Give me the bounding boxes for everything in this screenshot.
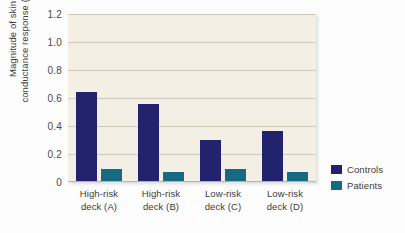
x-axis-category-label-line-1: Low-risk (192, 188, 254, 201)
x-axis-category-label: Low-riskdeck (C) (192, 188, 254, 214)
y-axis-title: Magnitude of skin conductance response (… (2, 0, 36, 134)
legend-swatch-icon (331, 165, 342, 174)
y-axis-title-line-1: Magnitude of skin (7, 1, 19, 77)
x-axis-category-label: High-riskdeck (B) (130, 188, 192, 214)
bar-controls-1 (76, 92, 97, 182)
legend-label: Controls (347, 164, 383, 175)
gridline (68, 14, 316, 15)
chart-legend: ControlsPatients (331, 163, 383, 195)
x-axis-category-label-line-2: deck (A) (68, 201, 130, 214)
gridline (68, 42, 316, 43)
plot-area (68, 14, 316, 182)
legend-item-controls[interactable]: Controls (331, 163, 383, 176)
chart-figure: Magnitude of skin conductance response (… (0, 0, 405, 233)
x-axis-category-label-line-1: Low-risk (254, 188, 316, 201)
x-axis-category-labels: High-riskdeck (A)High-riskdeck (B)Low-ri… (68, 188, 316, 222)
y-axis-tick-label: 0.4 (36, 121, 62, 132)
x-axis-category-label: High-riskdeck (A) (68, 188, 130, 214)
legend-label: Patients (347, 180, 382, 191)
y-axis-tick-label: 1.2 (36, 9, 62, 20)
y-axis-tick-label: 0 (36, 177, 62, 188)
bar-controls-4 (262, 131, 283, 182)
x-axis-category-label: Low-riskdeck (D) (254, 188, 316, 214)
bar-patients-3 (225, 169, 246, 182)
legend-item-patients[interactable]: Patients (331, 179, 383, 192)
gridline (68, 126, 316, 127)
y-axis-title-line-2: conductance response (SCR) (19, 0, 31, 103)
x-axis-category-label-line-2: deck (C) (192, 201, 254, 214)
y-axis-tick-label: 0.2 (36, 149, 62, 160)
y-axis-tick-label: 0.8 (36, 65, 62, 76)
y-axis-tick-label: 1.0 (36, 37, 62, 48)
bar-controls-2 (138, 104, 159, 182)
x-axis-category-label-line-1: High-risk (130, 188, 192, 201)
gridline (68, 98, 316, 99)
bar-controls-3 (200, 140, 221, 182)
legend-swatch-icon (331, 181, 342, 190)
gridline (68, 70, 316, 71)
x-axis-category-label-line-1: High-risk (68, 188, 130, 201)
x-axis-category-label-line-2: deck (B) (130, 201, 192, 214)
x-axis-category-label-line-2: deck (D) (254, 201, 316, 214)
y-axis-tick-label: 0.6 (36, 93, 62, 104)
x-axis-baseline (68, 181, 316, 182)
y-axis-tick-labels: 00.20.40.60.81.01.2 (36, 0, 62, 233)
